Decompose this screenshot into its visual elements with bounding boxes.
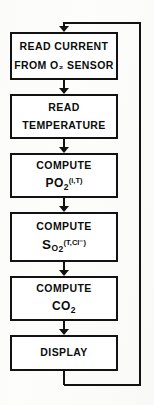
node-compute-so2-formula: SO2(T,Cl⁻) — [42, 238, 86, 254]
node-read-current-line2: FROM O₂ SENSOR — [14, 60, 114, 71]
formula-po2-base: PO — [45, 176, 63, 190]
node-compute-po2-formula: PO2(i,T) — [45, 177, 82, 192]
node-read-temperature-line1: READ — [48, 102, 79, 113]
node-read-current-line1: READ CURRENT — [20, 41, 109, 52]
formula-po2-superscript: (i,T) — [69, 176, 83, 185]
node-read-temperature[interactable]: READ TEMPERATURE — [10, 94, 118, 139]
node-compute-so2-line1: COMPUTE — [36, 221, 91, 232]
feedback-loop-top-segment — [64, 22, 141, 24]
node-read-current[interactable]: READ CURRENT FROM O₂ SENSOR — [10, 32, 118, 80]
node-compute-co2-formula: CO2 — [52, 300, 76, 315]
node-display-line1: DISPLAY — [40, 347, 87, 358]
node-compute-co2-line1: COMPUTE — [36, 283, 91, 294]
node-compute-so2[interactable]: COMPUTE SO2(T,Cl⁻) — [10, 212, 118, 262]
node-compute-co2[interactable]: COMPUTE CO2 — [10, 276, 118, 321]
node-display[interactable]: DISPLAY — [10, 335, 118, 371]
formula-co2-base: CO — [52, 299, 71, 313]
flowchart-diagram: READ CURRENT FROM O₂ SENSOR READ TEMPERA… — [0, 0, 154, 405]
feedback-loop-right-segment — [139, 22, 141, 386]
formula-co2-subscript: 2 — [71, 305, 76, 315]
node-read-temperature-line2: TEMPERATURE — [22, 120, 106, 131]
formula-so2-superscript: (T,Cl⁻) — [64, 238, 86, 247]
node-compute-po2-line1: COMPUTE — [36, 160, 91, 171]
feedback-loop-stub — [63, 370, 65, 385]
feedback-loop-bottom-segment — [64, 384, 141, 386]
node-compute-po2[interactable]: COMPUTE PO2(i,T) — [10, 153, 118, 198]
